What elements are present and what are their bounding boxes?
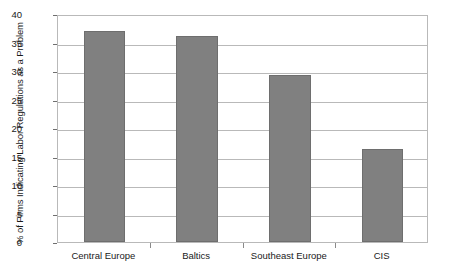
x-axis-category-label: Central Europe — [57, 250, 150, 262]
x-axis-tick-mark — [335, 243, 336, 248]
x-axis-category-label: Baltics — [150, 250, 243, 262]
y-axis-tick-label: 30 — [0, 67, 22, 77]
bar — [269, 75, 311, 242]
y-axis-tick-label: 5 — [0, 210, 22, 220]
y-axis-tick-label: 0 — [0, 238, 22, 248]
x-axis-category-label: Southeast Europe — [243, 250, 336, 262]
bar-chart: % of Firms Indicating Labor Regulations … — [0, 0, 453, 274]
y-axis-tick-label: 20 — [0, 124, 22, 134]
y-axis-tick-label: 15 — [0, 153, 22, 163]
bar — [362, 149, 404, 242]
y-axis-tick-mark — [53, 243, 57, 244]
x-axis-tick-mark — [150, 243, 151, 248]
y-axis-tick-label: 35 — [0, 39, 22, 49]
x-axis-tick-mark — [243, 243, 244, 248]
bar — [84, 31, 126, 242]
plot-area — [57, 15, 428, 243]
y-axis-tick-label: 10 — [0, 181, 22, 191]
y-axis-tick-label: 40 — [0, 10, 22, 20]
bar — [176, 36, 218, 242]
x-axis-category-label: CIS — [335, 250, 428, 262]
y-axis-tick-label: 25 — [0, 96, 22, 106]
